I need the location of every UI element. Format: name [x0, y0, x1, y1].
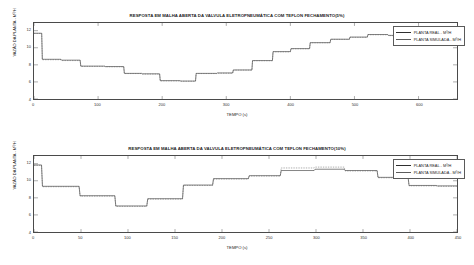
x-tick-label: 50	[69, 236, 91, 240]
chart-figure-bottom: RESPOSTA EM MALHA ABERTA DA VALVULA ELET…	[0, 133, 474, 265]
x-tick-label: 150	[164, 236, 186, 240]
x-tick-label: 0	[22, 103, 44, 107]
legend-item-simulada-bottom: PLANTA SIMULADA - M³/H	[396, 169, 461, 176]
y-tick-label: 8	[20, 63, 31, 67]
y-tick-label: 10	[20, 45, 31, 49]
x-tick-label: 400	[280, 103, 302, 107]
legend-label-real-bottom: PLANTA REAL - M³/H	[414, 164, 452, 168]
y-tick-label: 8	[20, 196, 31, 200]
y-tick-label: 6	[20, 80, 31, 84]
chart-figure-top: RESPOSTA EM MALHA ABERTA DA VALVULA ELET…	[0, 0, 474, 132]
y-tick-label: 6	[20, 213, 31, 217]
x-tick-label: 450	[447, 236, 469, 240]
legend-item-real-bottom: PLANTA REAL - M³/H	[396, 162, 461, 169]
x-tick-label: 500	[344, 103, 366, 107]
x-tick-label: 200	[211, 236, 233, 240]
x-tick-label: 100	[86, 103, 108, 107]
legend-line-swatch-simulada	[396, 172, 411, 173]
x-tick-label: 100	[116, 236, 138, 240]
x-axis-label-top: TEMPO (s)	[0, 112, 474, 117]
legend-bottom: PLANTA REAL - M³/H PLANTA SIMULADA - M³/…	[393, 159, 465, 179]
legend-item-simulada-top: PLANTA SIMULADA - M³/H	[396, 36, 461, 43]
figure-page: RESPOSTA EM MALHA ABERTA DA VALVULA ELET…	[0, 0, 474, 265]
x-tick-label: 300	[305, 236, 327, 240]
x-tick-label: 350	[353, 236, 375, 240]
legend-line-swatch-real	[396, 32, 411, 33]
x-axis-label-bottom: TEMPO (s)	[0, 245, 474, 250]
x-tick-label: 400	[400, 236, 422, 240]
legend-label-simulada-top: PLANTA SIMULADA - M³/H	[414, 38, 461, 42]
x-tick-label: 300	[215, 103, 237, 107]
y-tick-label: 4	[20, 231, 31, 235]
y-tick-label: 12	[20, 28, 31, 32]
y-tick-label: 4	[20, 98, 31, 102]
x-tick-label: 600	[408, 103, 430, 107]
x-tick-label: 200	[151, 103, 173, 107]
legend-top: PLANTA REAL - M³/H PLANTA SIMULADA - M³/…	[393, 26, 465, 46]
y-tick-label: 10	[20, 178, 31, 182]
x-tick-label: 250	[258, 236, 280, 240]
legend-line-swatch-simulada	[396, 39, 411, 40]
x-tick-label: 0	[22, 236, 44, 240]
legend-item-real-top: PLANTA REAL - M³/H	[396, 29, 461, 36]
legend-label-simulada-bottom: PLANTA SIMULADA - M³/H	[414, 171, 461, 175]
legend-line-swatch-real	[396, 165, 411, 166]
legend-label-real-top: PLANTA REAL - M³/H	[414, 31, 452, 35]
y-tick-label: 12	[20, 161, 31, 165]
